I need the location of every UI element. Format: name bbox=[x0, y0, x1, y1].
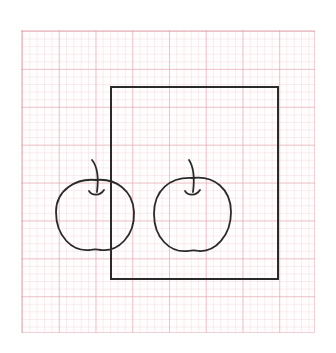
drawing-canvas bbox=[0, 0, 336, 353]
right-apple-icon bbox=[154, 160, 231, 251]
left-apple-icon bbox=[56, 160, 134, 250]
sketch-layer bbox=[0, 0, 336, 353]
